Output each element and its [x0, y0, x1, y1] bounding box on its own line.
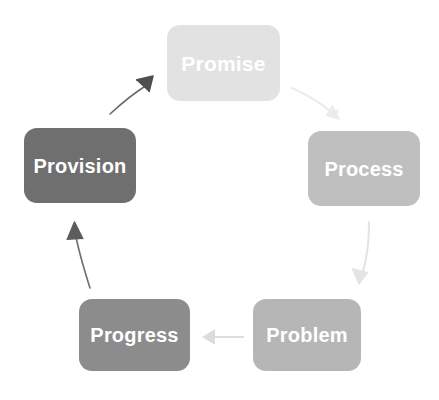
cycle-node-problem[interactable]: Problem: [253, 299, 361, 371]
cycle-node-process[interactable]: Process: [308, 131, 420, 206]
cycle-node-problem-label: Problem: [266, 325, 347, 345]
connector-process-to-problem: [352, 222, 369, 284]
connector-provision-to-promise: [110, 76, 153, 114]
cycle-node-provision[interactable]: Provision: [24, 128, 136, 203]
cycle-node-provision-label: Provision: [34, 156, 127, 176]
cycle-diagram: Promise Process Problem Progress Provisi…: [0, 0, 439, 400]
cycle-node-promise[interactable]: Promise: [167, 25, 280, 101]
cycle-node-progress-label: Progress: [90, 325, 178, 345]
connector-progress-to-provision: [67, 222, 90, 288]
connector-promise-to-process: [292, 88, 339, 119]
cycle-node-progress[interactable]: Progress: [79, 299, 190, 371]
cycle-node-promise-label: Promise: [181, 53, 265, 74]
cycle-node-process-label: Process: [324, 159, 403, 179]
connector-problem-to-progress: [203, 330, 243, 344]
